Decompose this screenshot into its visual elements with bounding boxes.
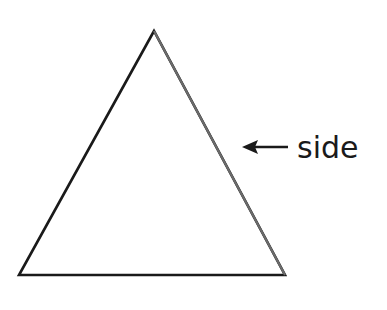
triangle-diagram: side [0, 0, 387, 310]
arrow-left-icon [242, 140, 288, 154]
triangle-shape [19, 31, 285, 275]
side-label: side [297, 130, 358, 165]
